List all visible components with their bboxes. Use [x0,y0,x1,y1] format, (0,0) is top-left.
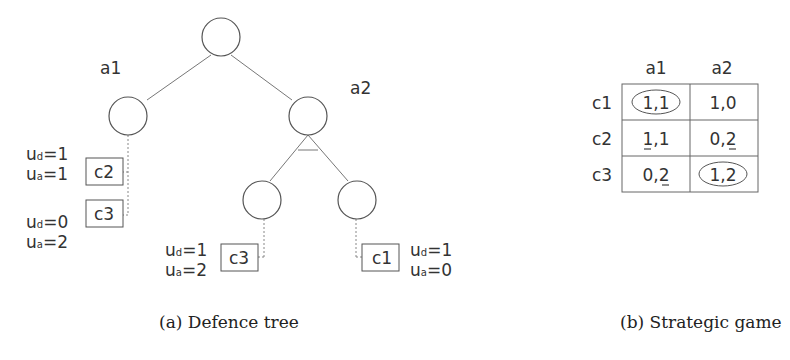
cell-c1-a1: 1,1 [642,93,669,113]
edge-label-a1: a1 [100,58,121,78]
edge-label-a2: a2 [350,78,371,98]
leaf-label-c3-mid: c3 [229,248,249,268]
node-a1 [109,97,147,135]
cell-c2-a1: 1,1 [642,129,669,149]
root-node [202,18,240,56]
utility-c3-left: ud=0 ua=2 [26,212,68,252]
svg-text:ud=1: ud=1 [26,144,68,164]
node-a2-right [338,181,376,219]
node-a2-left [243,181,281,219]
row-header-c1: c1 [592,93,612,113]
col-header-a1: a1 [645,58,666,78]
cell-c3-a1: 0,2 [642,165,669,185]
svg-text:ud=0: ud=0 [26,212,68,232]
row-header-c3: c3 [592,165,612,185]
svg-text:ua=1: ua=1 [26,164,68,184]
row-header-c2: c2 [592,129,612,149]
col-header-a2: a2 [711,58,732,78]
utility-c3-mid: ud=1 ua=2 [165,240,207,280]
leaf-label-c3-left: c3 [94,204,114,224]
svg-text:ud=1: ud=1 [165,240,207,260]
leaf-label-c2: c2 [94,162,114,182]
cell-c1-a2: 1,0 [709,93,736,113]
caption-defence-tree: (a) Defence tree [159,312,299,332]
cell-c2-a2: 0,2 [709,129,736,149]
leaf-label-c1: c1 [372,248,392,268]
svg-text:ua=0: ua=0 [410,260,452,280]
caption-strategic-game: (b) Strategic game [620,312,782,332]
utility-c1: ud=1 ua=0 [410,240,452,280]
game-table: a1 a2 c1 c2 c3 1,1 1,0 1,1 0,2 0,2 1,2 [592,58,758,192]
tree-dashed-links [123,135,362,257]
svg-text:ud=1: ud=1 [410,240,452,260]
node-a2 [289,97,327,135]
figure: a1 a2 c2 c3 c3 c1 ud=1 ua=1 ud=0 ua=2 ud… [0,0,790,360]
cell-c3-a2: 1,2 [709,165,736,185]
svg-text:ua=2: ua=2 [26,232,68,252]
svg-text:ua=2: ua=2 [165,260,207,280]
utility-c2: ud=1 ua=1 [26,144,68,184]
